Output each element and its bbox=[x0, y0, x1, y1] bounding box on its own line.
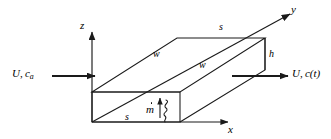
outlet-concentration-argument: (t) bbox=[310, 67, 320, 79]
box-top-face bbox=[92, 38, 265, 92]
outlet-velocity-symbol: U bbox=[292, 67, 300, 79]
x-axis-label: x bbox=[228, 124, 233, 135]
bottom-front-edge-s-label: s bbox=[125, 112, 129, 122]
control-volume-box bbox=[92, 38, 265, 122]
schematic-svg bbox=[0, 0, 331, 139]
z-axis-label: z bbox=[80, 20, 84, 31]
y-axis-line bbox=[92, 14, 290, 122]
mass-source-indicator bbox=[160, 98, 168, 122]
inlet-concentration-subscript: a bbox=[30, 72, 34, 81]
axis-group bbox=[92, 14, 290, 122]
mass-source-symbol: m bbox=[146, 103, 154, 115]
mass-source-squiggle bbox=[164, 100, 168, 122]
y-axis-label: y bbox=[291, 4, 296, 15]
mass-source-overdot-icon bbox=[151, 102, 153, 104]
upper-w-label: w bbox=[153, 49, 160, 59]
inlet-velocity-symbol: U bbox=[12, 67, 20, 79]
height-h-label: h bbox=[269, 49, 274, 59]
lower-w-label: w bbox=[199, 60, 206, 70]
figure-container: z y x s s w w h U, ca U, c(t) m bbox=[0, 0, 331, 139]
mass-source-label: m bbox=[146, 104, 154, 115]
top-back-edge-s-label: s bbox=[219, 22, 223, 32]
inlet-flow-label: U, ca bbox=[12, 68, 34, 81]
outlet-flow-label: U, c(t) bbox=[292, 68, 320, 79]
box-front-face bbox=[92, 92, 180, 122]
